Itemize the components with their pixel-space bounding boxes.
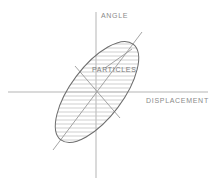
angle-axis-label: ANGLE	[101, 12, 128, 19]
phase-space-diagram: ANGLE DISPLACEMENT PARTICLES	[0, 0, 218, 185]
diagram-canvas: ANGLE DISPLACEMENT PARTICLES	[0, 0, 218, 185]
displacement-axis-label: DISPLACEMENT	[146, 97, 209, 104]
particles-callout-label: PARTICLES	[92, 66, 137, 73]
